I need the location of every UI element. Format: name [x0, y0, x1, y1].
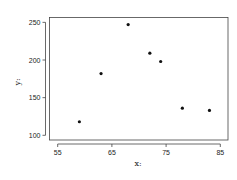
- x-tick-label: 85: [216, 149, 224, 156]
- scatter-plot: 100150200250 55657585 y: x:: [0, 0, 237, 180]
- plot-frame: [50, 18, 229, 141]
- data-point: [181, 107, 184, 110]
- y-tick-label: 150: [29, 94, 41, 101]
- x-tick-label: 65: [108, 149, 116, 156]
- x-axis-label: x:: [134, 159, 141, 168]
- data-point: [208, 109, 211, 112]
- y-tick-label: 100: [29, 132, 41, 139]
- y-axis: 100150200250: [29, 19, 46, 139]
- data-point: [78, 120, 81, 123]
- y-tick-label: 200: [29, 57, 41, 64]
- x-tick-label: 75: [162, 149, 170, 156]
- data-point: [159, 60, 162, 63]
- x-axis: 55657585: [54, 144, 224, 156]
- data-point: [127, 23, 130, 26]
- y-axis-label: y:: [13, 78, 22, 86]
- data-point: [148, 52, 151, 55]
- x-tick-label: 55: [54, 149, 62, 156]
- data-points: [78, 23, 211, 123]
- data-point: [99, 72, 102, 75]
- y-tick-label: 250: [29, 19, 41, 26]
